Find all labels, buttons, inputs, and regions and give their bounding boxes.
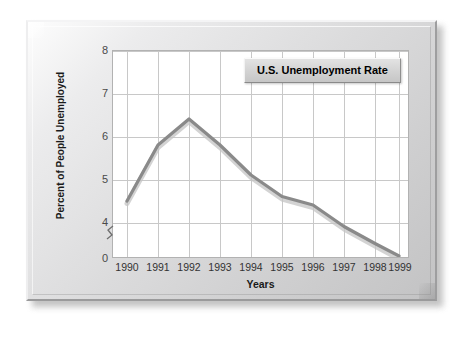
chart-title-plate: U.S. Unemployment Rate — [244, 58, 401, 83]
chart-area: Percent of People Unemployed 8 7 6 5 4 0 — [28, 22, 439, 303]
y-tick-label: 8 — [86, 45, 108, 56]
x-tick-label: 1999 — [380, 262, 420, 273]
y-tick-label: 0 — [86, 253, 108, 264]
y-tick-label: 5 — [86, 174, 108, 185]
x-axis-tick-labels: 1990 1991 1992 1993 1994 1995 1996 1997 … — [112, 262, 409, 278]
chart-screenshot: Percent of People Unemployed 8 7 6 5 4 0 — [0, 0, 467, 339]
y-tick-label: 6 — [86, 131, 108, 142]
y-tick-label: 7 — [86, 88, 108, 99]
y-axis-break-icon — [105, 222, 121, 244]
y-axis-tick-labels: 8 7 6 5 4 0 — [80, 50, 108, 258]
x-axis-title: Years — [112, 278, 409, 290]
chart-plaque: Percent of People Unemployed 8 7 6 5 4 0 — [26, 20, 437, 301]
data-line-shadow — [127, 122, 399, 258]
y-axis-title: Percent of People Unemployed — [55, 51, 66, 241]
